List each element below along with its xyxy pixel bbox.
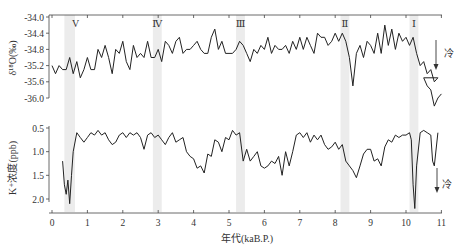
top-y-axis-label: δ¹⁸O(‰) — [7, 40, 19, 75]
x-tick-label: 7 — [297, 218, 302, 228]
period-band — [341, 15, 350, 212]
bottom-y-tick-label: 1.5 — [32, 171, 44, 181]
x-tick-label: 9 — [368, 218, 373, 228]
x-tick-label: 4 — [191, 218, 196, 228]
x-tick-label: 8 — [333, 218, 338, 228]
x-tick-label: 1 — [85, 218, 90, 228]
down-arrow-icon — [435, 187, 440, 193]
x-axis-label: 年代(kaB.P.) — [221, 232, 273, 245]
period-band — [64, 15, 75, 212]
bottom-y-axis-label: K⁺浓度(ppb) — [6, 141, 19, 195]
period-label: V — [72, 18, 80, 29]
cold-label-bottom: 冷 — [442, 178, 452, 190]
top-y-tick-label: -35.2 — [24, 61, 44, 71]
delta18o-line — [52, 25, 441, 106]
climate-period-bands: VⅣⅢⅡⅠ — [64, 15, 418, 212]
x-tick-label: 2 — [120, 218, 125, 228]
ice-core-chart: VⅣⅢⅡⅠ -34.0-34.4-34.8-35.2-35.6-36.00.51… — [0, 0, 458, 249]
bottom-y-tick-label: 2.0 — [32, 195, 44, 205]
x-tick-label: 0 — [50, 218, 55, 228]
top-y-tick-label: -34.8 — [24, 45, 44, 55]
period-band — [153, 15, 162, 212]
bottom-y-tick-label: 1.0 — [32, 147, 44, 157]
x-tick-label: 3 — [156, 218, 161, 228]
chart-svg: VⅣⅢⅡⅠ -34.0-34.4-34.8-35.2-35.6-36.00.51… — [0, 0, 458, 249]
top-y-tick-label: -34.4 — [24, 29, 44, 39]
period-label: Ⅱ — [342, 18, 349, 29]
axes: -34.0-34.4-34.8-35.2-35.6-36.00.51.01.52… — [24, 13, 446, 229]
bottom-y-tick-label: 0.5 — [32, 124, 44, 134]
top-y-tick-label: -34.0 — [24, 13, 44, 23]
period-label: Ⅳ — [152, 18, 163, 29]
series — [52, 25, 441, 208]
x-tick-label: 5 — [227, 218, 232, 228]
cold-label-top: 冷 — [444, 47, 454, 59]
top-y-tick-label: -36.0 — [24, 94, 44, 104]
x-tick-label: 11 — [437, 218, 446, 228]
potassium-line — [63, 130, 438, 208]
period-band — [236, 15, 245, 212]
period-label: Ⅲ — [236, 18, 246, 29]
period-band — [410, 15, 419, 212]
down-arrow-icon — [434, 64, 439, 70]
period-label: Ⅰ — [412, 18, 416, 29]
x-tick-label: 10 — [401, 218, 411, 228]
x-tick-label: 6 — [262, 218, 267, 228]
top-y-tick-label: -35.6 — [24, 77, 44, 87]
